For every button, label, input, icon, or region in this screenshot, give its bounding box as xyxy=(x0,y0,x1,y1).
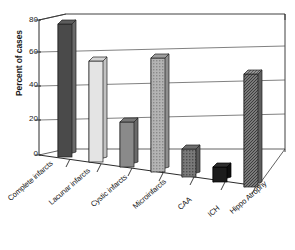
bar-ich xyxy=(213,163,231,182)
bar-microinfarcts xyxy=(151,54,169,172)
bar-complete-infarcts xyxy=(58,20,76,157)
bar-cystic-infarcts xyxy=(120,118,138,167)
bar-hippo-atrophy xyxy=(244,70,262,187)
bar-lacunar-infarcts xyxy=(89,57,107,162)
bar-chart: Percent of cases 80 60 40 20 0 xyxy=(0,0,295,250)
plot-area xyxy=(0,0,295,250)
bar-caa xyxy=(182,145,200,177)
y-tick-marks xyxy=(35,20,41,155)
